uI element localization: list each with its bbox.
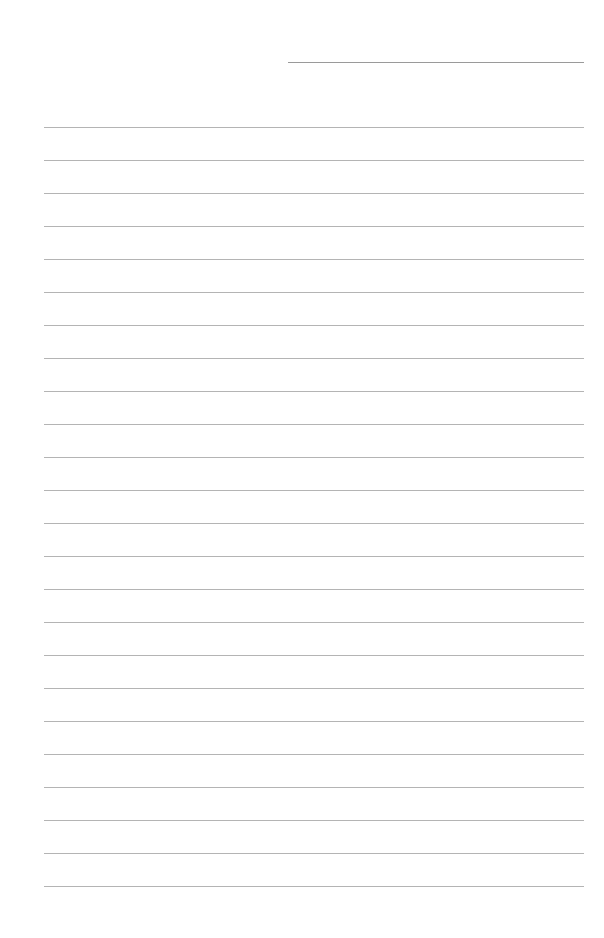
ruled-line xyxy=(44,457,584,458)
notebook-page xyxy=(0,0,604,938)
ruled-line xyxy=(44,754,584,755)
ruled-line xyxy=(44,589,584,590)
ruled-line xyxy=(44,721,584,722)
ruled-line xyxy=(44,358,584,359)
ruled-line xyxy=(44,655,584,656)
ruled-line xyxy=(44,490,584,491)
ruled-line xyxy=(44,160,584,161)
ruled-line xyxy=(44,325,584,326)
ruled-line xyxy=(44,523,584,524)
ruled-line xyxy=(44,622,584,623)
ruled-line xyxy=(44,853,584,854)
bleed-through-text xyxy=(150,58,450,98)
ruled-line xyxy=(44,424,584,425)
title-line xyxy=(288,62,584,63)
ruled-line xyxy=(44,127,584,128)
ruled-line xyxy=(44,556,584,557)
ruled-line xyxy=(44,226,584,227)
ruled-line xyxy=(44,292,584,293)
ruled-line xyxy=(44,886,584,887)
ruled-line xyxy=(44,391,584,392)
ruled-line xyxy=(44,787,584,788)
ruled-line xyxy=(44,193,584,194)
ruled-line xyxy=(44,688,584,689)
ruled-line xyxy=(44,820,584,821)
ruled-line xyxy=(44,259,584,260)
